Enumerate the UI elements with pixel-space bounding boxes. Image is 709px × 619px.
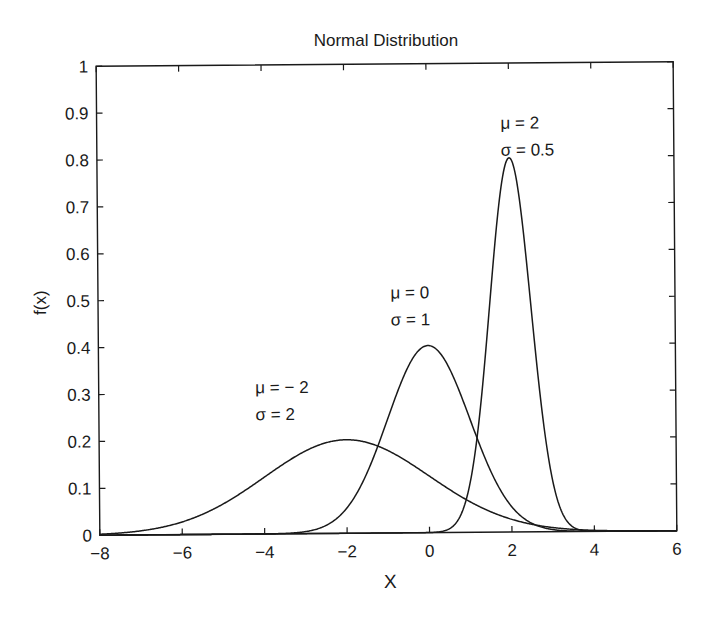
curve-annotation: μ = 0 bbox=[390, 283, 429, 302]
y-tick-label: 0.9 bbox=[65, 104, 89, 123]
y-tick-label: 0.4 bbox=[67, 339, 91, 358]
y-tick-label: 0.5 bbox=[66, 292, 90, 311]
curve-0 bbox=[99, 437, 677, 535]
x-axis-label: X bbox=[384, 571, 397, 592]
ticks: −8−6−4−2024600.10.20.30.40.50.60.70.80.9… bbox=[64, 53, 681, 564]
x-tick-label: −8 bbox=[90, 544, 110, 563]
x-tick-label: 4 bbox=[590, 540, 600, 559]
y-tick-label: 0.8 bbox=[65, 151, 89, 170]
normal-distribution-chart: Normal Distribution −8−6−4−2024600.10.20… bbox=[0, 0, 709, 619]
curves bbox=[97, 157, 677, 536]
curve-annotation: μ = 2 bbox=[500, 113, 539, 132]
curve-annotation: σ = 0.5 bbox=[501, 140, 555, 159]
y-tick-label: 0 bbox=[82, 526, 92, 545]
curve-1 bbox=[98, 344, 676, 536]
y-tick-label: 0.1 bbox=[68, 479, 92, 498]
y-tick-label: 0.6 bbox=[66, 245, 90, 264]
y-tick-label: 1 bbox=[79, 57, 89, 76]
x-tick-label: 0 bbox=[425, 542, 435, 561]
y-tick-label: 0.7 bbox=[66, 198, 90, 217]
x-tick-label: −6 bbox=[173, 544, 193, 563]
x-tick-label: 6 bbox=[672, 540, 682, 559]
curve-annotation: σ = 1 bbox=[391, 310, 430, 329]
y-tick-label: 0.3 bbox=[67, 386, 91, 405]
curve-2 bbox=[97, 157, 677, 536]
x-tick-label: −4 bbox=[255, 543, 275, 562]
chart-title: Normal Distribution bbox=[314, 31, 459, 50]
x-tick-label: −2 bbox=[337, 542, 357, 561]
curve-annotation: σ = 2 bbox=[255, 405, 294, 424]
axes-box bbox=[96, 62, 677, 536]
y-tick-label: 0.2 bbox=[67, 433, 91, 452]
curve-annotation: μ = − 2 bbox=[255, 378, 308, 397]
x-tick-label: 2 bbox=[507, 541, 517, 560]
y-axis-label: f(x) bbox=[31, 290, 50, 315]
